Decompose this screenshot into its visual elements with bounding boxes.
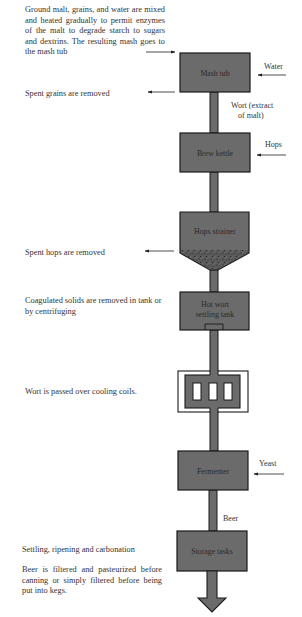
vessel-hops-strainer: Hops strainer (180, 212, 249, 270)
hops-label: Hops (265, 140, 282, 149)
output-arrow-icon (198, 571, 226, 612)
water-label: Water (264, 62, 283, 71)
brew-kettle-label: Brew kettle (197, 149, 234, 158)
storage-tanks-label: Storage tasks (191, 547, 232, 556)
beer-label: Beer (223, 514, 238, 523)
vessel-fermenter: Fermenter (178, 451, 248, 490)
vessel-mash-tub: Mash tub (180, 53, 250, 92)
mash-tub-label: Mash tub (200, 69, 229, 78)
brewing-flow-diagram: Mash tub Brew kettle Hops strainer Hot w… (0, 0, 302, 617)
settling-tank-label-line2: settling tank (196, 310, 234, 319)
wort-label-line1: Wort (extract (231, 101, 274, 110)
vessel-hot-wort-settling-tank: Hot wort settling tank (180, 292, 249, 330)
hops-strainer-label: Hops strainer (194, 227, 236, 236)
vessel-cooling-coils (178, 370, 248, 413)
yeast-label: Yeast (259, 459, 277, 468)
wort-label-line2: of malt) (238, 111, 264, 120)
cooling-coil-2 (209, 383, 217, 400)
cooling-coil-3 (224, 383, 232, 400)
vessel-storage-tanks: Storage tasks (177, 531, 247, 571)
settling-tank-label-line1: Hot wort (201, 300, 230, 309)
vessel-brew-kettle: Brew kettle (180, 133, 250, 172)
fermenter-label: Fermenter (197, 467, 229, 476)
cooling-coil-1 (193, 383, 201, 400)
